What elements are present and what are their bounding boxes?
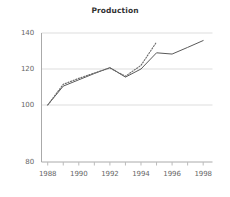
- series-line-trend: [48, 42, 157, 105]
- axis-lines: [42, 33, 213, 162]
- x-tick-label-1990: 1990: [66, 170, 92, 178]
- x-tick-label-1988: 1988: [35, 170, 61, 178]
- y-tick-label-80: 80: [12, 158, 34, 166]
- x-tick-label-1998: 1998: [190, 170, 216, 178]
- x-tick-label-1996: 1996: [159, 170, 185, 178]
- y-tick-label-140: 140: [12, 29, 34, 37]
- series-line-actual: [48, 41, 203, 105]
- y-tick-label-100: 100: [12, 101, 34, 109]
- x-tick-label-1994: 1994: [128, 170, 154, 178]
- gridlines: [42, 33, 213, 105]
- y-tick-label-120: 120: [12, 65, 34, 73]
- plot-area: [0, 0, 230, 197]
- production-line-chart: Production 80100120140 19881990199219941…: [0, 0, 230, 197]
- x-tick-label-1992: 1992: [97, 170, 123, 178]
- x-tick-marks: [48, 162, 203, 166]
- data-series-layer: [48, 41, 203, 105]
